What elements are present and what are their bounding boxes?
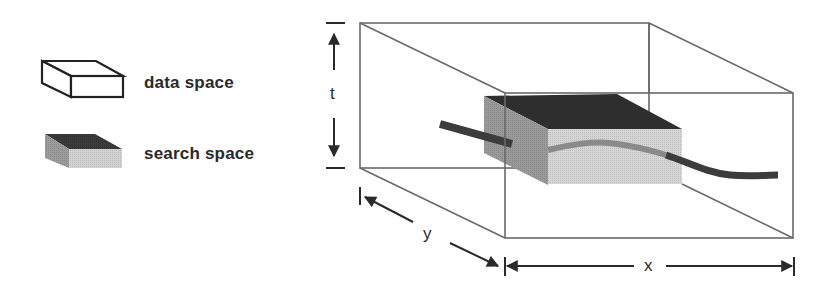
y-front-arrow-icon [450, 243, 498, 266]
y-axis-label: y [423, 224, 432, 244]
legend-data-space-icon [42, 61, 123, 97]
legend-label-data-space: data space [144, 73, 234, 93]
x-axis-label: x [644, 256, 653, 276]
t-axis-label: t [330, 84, 335, 104]
search-space-box [484, 94, 682, 185]
diagram-canvas [0, 0, 838, 291]
y-back-arrow-icon [365, 197, 413, 222]
legend-label-search-space: search space [144, 144, 254, 164]
t-axis-indicator [326, 23, 345, 168]
legend-search-space-icon [45, 134, 122, 168]
